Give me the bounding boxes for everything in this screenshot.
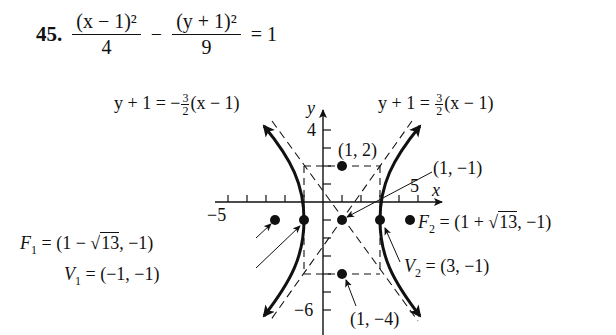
- asymptote-left-rhs: (x − 1): [190, 93, 239, 113]
- focus-2-sqrt: 13: [498, 211, 517, 232]
- term-1-denominator: 4: [102, 35, 112, 59]
- asymptote-left-lhs: y + 1 = −: [114, 93, 180, 113]
- vertex-2-point: [375, 215, 385, 225]
- vertex-1-label: V1 = (−1, −1): [64, 264, 159, 289]
- y-axis-label: y: [307, 98, 315, 118]
- slope-denominator: 2: [182, 105, 188, 117]
- asymptote-left-slope: 32: [181, 92, 189, 117]
- y-axis: [323, 110, 331, 335]
- equation-term-1: (x − 1)² 4: [72, 10, 141, 59]
- point-label-top: (1, 2): [338, 140, 377, 161]
- focus-1-label: F1 = (1 − √13, −1): [20, 233, 153, 258]
- x-tick-label-neg5: −5: [207, 205, 226, 226]
- box-bottom-point: [337, 269, 347, 279]
- slope-denominator: 2: [436, 105, 442, 117]
- term-2-numerator: (y + 1)²: [172, 10, 241, 35]
- focus-2-label: F2 = (1 + √13, −1): [418, 212, 551, 237]
- focus-1-name: F: [20, 233, 31, 253]
- right-asymptote-label: y + 1 = 32(x − 1): [378, 92, 493, 117]
- focus-1-suffix: , −1): [119, 233, 153, 253]
- asymptote-right-rhs: (x − 1): [444, 93, 493, 113]
- term-1-numerator: (x − 1)²: [72, 10, 141, 35]
- focus-1-point: [270, 215, 280, 225]
- focus-2-prefix: = (1 +: [435, 212, 488, 232]
- asymptote-right-slope: 32: [435, 92, 443, 117]
- equation-rhs: = 1: [251, 23, 277, 46]
- focus-1-prefix: = (1 −: [37, 233, 90, 253]
- key-points: [270, 161, 415, 279]
- asymptote-right-lhs: y + 1 =: [378, 93, 434, 113]
- y-tick-label-neg6: −6: [294, 300, 313, 321]
- equation-term-2: (y + 1)² 9: [172, 10, 241, 59]
- focus-2-name: F: [418, 212, 429, 232]
- problem-number: 45.: [36, 22, 62, 47]
- vertex-2-name: V: [404, 256, 415, 276]
- equation-operator: −: [151, 23, 162, 46]
- left-asymptote-label: y + 1 = −32(x − 1): [114, 92, 240, 117]
- vertex-2-value: = (3, −1): [421, 256, 489, 276]
- x-tick-label-5: 5: [410, 176, 419, 197]
- focus-2-suffix: , −1): [517, 212, 551, 232]
- vertex-2-label: V2 = (3, −1): [404, 256, 489, 281]
- y-tick-label-4: 4: [307, 120, 316, 141]
- point-label-center: (1, −1): [433, 158, 482, 179]
- x-axis-label: x: [432, 180, 440, 200]
- vertex-1-point: [299, 215, 309, 225]
- vertex-1-name: V: [64, 264, 75, 284]
- box-top-point: [337, 161, 347, 171]
- vertex-1-value: = (−1, −1): [81, 264, 159, 284]
- focus-1-sqrt: 13: [100, 232, 119, 253]
- problem-equation: 45. (x − 1)² 4 − (y + 1)² 9 = 1: [36, 10, 277, 59]
- center-point: [337, 215, 347, 225]
- leader-lines: [256, 172, 432, 306]
- term-2-denominator: 9: [201, 35, 211, 59]
- focus-2-point: [405, 215, 415, 225]
- point-label-bottom: (1, −4): [350, 309, 399, 330]
